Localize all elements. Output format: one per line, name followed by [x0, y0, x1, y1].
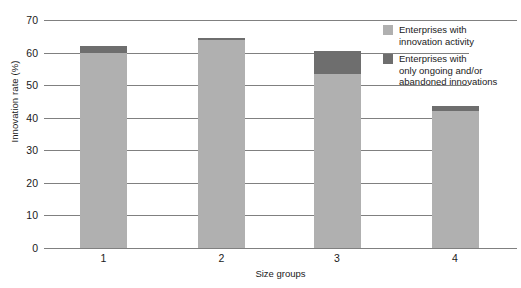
y-tick-label-40: 40	[12, 113, 38, 124]
bar-segment-innovation-activity	[432, 111, 479, 248]
gridline-70	[44, 20, 517, 21]
y-tick-label-60: 60	[12, 48, 38, 59]
chart-container: Innovation rate (%) 010203040506070 1234…	[0, 0, 521, 288]
legend-label-ongoing-abandoned: Enterprises with only ongoing and/or aba…	[399, 53, 497, 88]
bar-group	[314, 51, 361, 248]
legend-swatch-light	[383, 25, 393, 35]
bar-segment-innovation-activity	[198, 40, 245, 248]
y-axis-title: Innovation rate (%)	[9, 42, 20, 162]
bar-group	[80, 46, 127, 248]
bar-group	[198, 38, 245, 248]
legend-swatch-dark	[383, 54, 393, 64]
y-tick-label-10: 10	[12, 210, 38, 221]
x-tick-label-3: 3	[307, 252, 367, 264]
y-tick-label-30: 30	[12, 145, 38, 156]
y-tick-label-0: 0	[12, 243, 38, 254]
y-tick-label-20: 20	[12, 178, 38, 189]
bar-segment-innovation-activity	[314, 74, 361, 248]
legend-label-line1: Enterprises with	[399, 53, 467, 64]
legend-label-line2: only ongoing and/or	[399, 65, 482, 76]
bar-group	[432, 106, 479, 248]
bar-segment-innovation-activity	[80, 53, 127, 248]
y-tick-label-70: 70	[12, 15, 38, 26]
legend-label-line1: Enterprises with	[399, 24, 467, 35]
x-axis-line	[44, 248, 517, 249]
legend-label-line3: abandoned innovations	[399, 76, 497, 87]
legend-item-ongoing-abandoned: Enterprises with only ongoing and/or aba…	[383, 53, 519, 88]
y-tick-label-50: 50	[12, 80, 38, 91]
x-tick-label-2: 2	[192, 252, 252, 264]
x-axis-title: Size groups	[44, 268, 517, 279]
chart-legend: Enterprises with innovation activity Ent…	[383, 24, 519, 94]
bar-segment-ongoing-abandoned	[314, 51, 361, 74]
legend-label-innovation-activity: Enterprises with innovation activity	[399, 24, 474, 47]
legend-item-innovation-activity: Enterprises with innovation activity	[383, 24, 519, 47]
x-tick-label-1: 1	[74, 252, 134, 264]
x-tick-label-4: 4	[425, 252, 485, 264]
legend-label-line2: innovation activity	[399, 36, 474, 47]
